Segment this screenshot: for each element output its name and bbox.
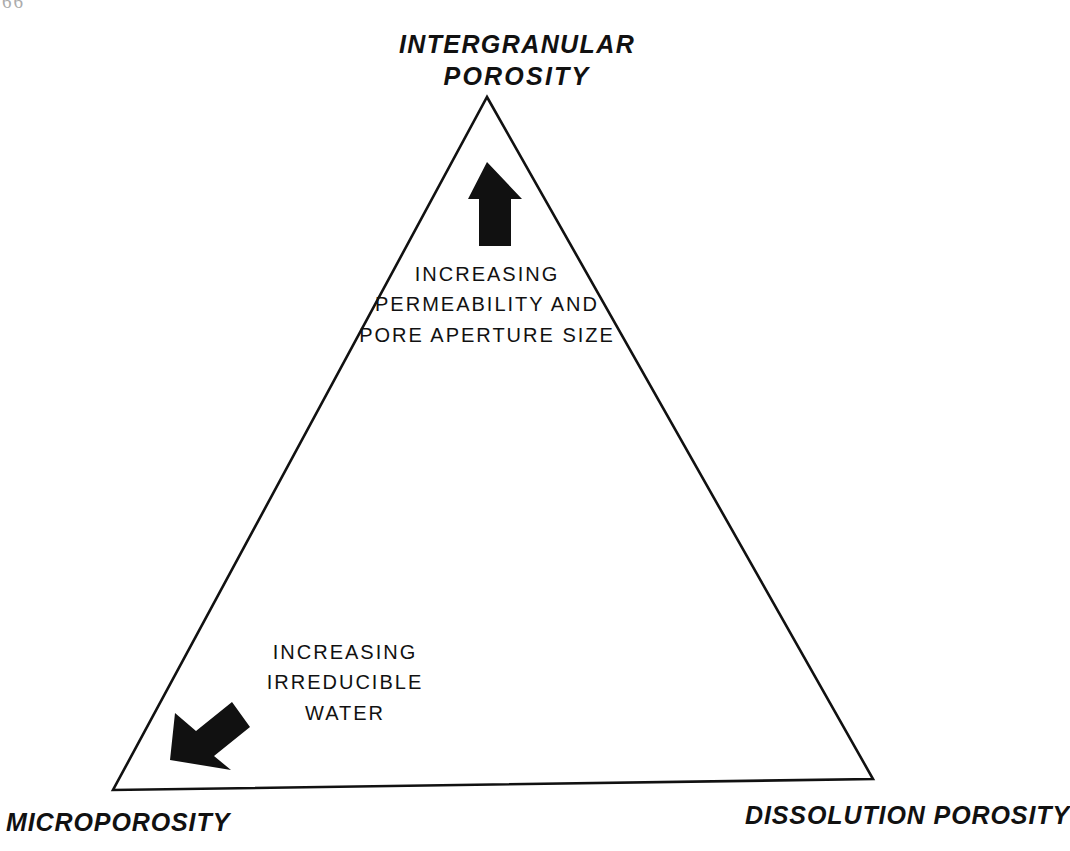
annotation-upper-line-1: INCREASING <box>287 259 687 289</box>
vertex-label-line-1: INTERGRANULAR <box>0 28 1034 60</box>
annotation-upper-line-3: PORE APERTURE SIZE <box>287 320 687 350</box>
page-number-mark: 66 <box>2 0 25 13</box>
annotation-lower-line-1: INCREASING <box>225 637 465 667</box>
annotation-upper-line-2: PERMEABILITY AND <box>287 289 687 319</box>
annotation-increasing-irreducible-water: INCREASING IRREDUCIBLE WATER <box>225 637 465 728</box>
vertex-label-line-2: POROSITY <box>0 60 1034 92</box>
annotation-increasing-permeability: INCREASING PERMEABILITY AND PORE APERTUR… <box>287 259 687 350</box>
annotation-lower-line-3: WATER <box>225 698 465 728</box>
annotation-lower-line-2: IRREDUCIBLE <box>225 667 465 697</box>
vertex-label-intergranular-porosity: INTERGRANULAR POROSITY <box>0 28 1034 92</box>
vertex-label-microporosity: MICROPOROSITY <box>6 806 230 838</box>
vertex-label-dissolution-porosity: DISSOLUTION POROSITY <box>745 799 1070 831</box>
